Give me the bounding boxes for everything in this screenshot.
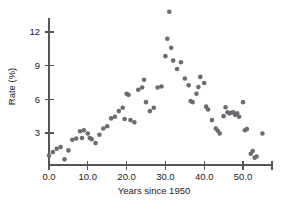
data-point: [223, 105, 228, 110]
data-point: [117, 109, 122, 114]
data-point: [175, 67, 180, 72]
data-point: [47, 153, 52, 158]
data-point: [142, 77, 147, 82]
data-point: [167, 10, 172, 15]
data-point: [78, 129, 83, 134]
data-point: [120, 105, 125, 110]
data-point: [148, 109, 153, 114]
data-point: [260, 131, 265, 136]
x-tick-label-30.0: 30.0: [156, 171, 175, 182]
data-point: [202, 81, 207, 86]
data-point: [122, 117, 127, 122]
y-tick-label-9: 9: [35, 60, 40, 71]
data-point: [113, 114, 118, 119]
data-point: [237, 114, 242, 119]
y-tick-label-12: 12: [29, 26, 40, 37]
data-point: [151, 105, 156, 110]
data-point: [62, 157, 67, 162]
data-point: [190, 100, 195, 105]
data-point: [171, 58, 176, 63]
data-point: [210, 118, 215, 123]
y-axis-title: Rate (%): [6, 68, 17, 105]
data-point: [140, 85, 145, 90]
data-point: [194, 91, 199, 96]
data-point: [97, 132, 102, 137]
plot-canvas: 36912 0.010.020.030.040.050.0 Years sinc…: [0, 0, 285, 207]
data-point: [217, 131, 222, 136]
y-tick-label-6: 6: [35, 94, 40, 105]
x-tick-label-20.0: 20.0: [117, 171, 136, 182]
data-point: [186, 83, 191, 88]
data-point: [155, 85, 160, 90]
data-point: [89, 137, 94, 142]
data-point: [163, 54, 168, 59]
data-points: [47, 10, 265, 162]
data-point: [80, 136, 85, 141]
x-axis-title: Years since 1950: [118, 185, 191, 196]
data-point: [105, 124, 110, 129]
data-point: [183, 76, 188, 81]
x-tick-label-50.0: 50.0: [234, 171, 253, 182]
data-point: [82, 128, 87, 133]
scatter-plot-figure: 36912 0.010.020.030.040.050.0 Years sinc…: [0, 0, 285, 207]
x-axis: 0.010.020.030.040.050.0: [42, 161, 272, 183]
data-point: [165, 36, 170, 41]
data-point: [51, 150, 56, 155]
data-point: [70, 137, 75, 142]
y-axis: 36912: [29, 18, 53, 165]
data-point: [169, 45, 174, 50]
data-point: [132, 120, 137, 125]
data-point: [206, 107, 211, 112]
data-point: [196, 85, 201, 90]
x-tick-label-10.0: 10.0: [79, 171, 98, 182]
data-point: [86, 131, 91, 136]
x-tick-label-0.0: 0.0: [42, 171, 55, 182]
data-point: [74, 136, 79, 141]
data-point: [254, 154, 259, 159]
data-point: [144, 100, 149, 105]
data-point: [126, 93, 131, 98]
data-point: [245, 127, 250, 132]
data-point: [159, 84, 164, 89]
y-tick-label-3: 3: [35, 127, 40, 138]
data-point: [66, 148, 71, 153]
data-point: [250, 149, 255, 154]
data-point: [136, 87, 141, 92]
data-point: [198, 75, 203, 80]
x-tick-label-40.0: 40.0: [195, 171, 214, 182]
data-point: [179, 60, 184, 65]
data-point: [101, 126, 106, 131]
data-point: [241, 100, 246, 105]
data-point: [221, 114, 226, 119]
data-point: [58, 145, 63, 150]
data-point: [93, 141, 98, 146]
data-point: [128, 118, 133, 123]
